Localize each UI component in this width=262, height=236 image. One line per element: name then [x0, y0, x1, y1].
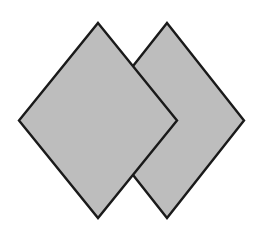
figure-canvas [0, 0, 262, 236]
diagram-svg [0, 0, 262, 236]
